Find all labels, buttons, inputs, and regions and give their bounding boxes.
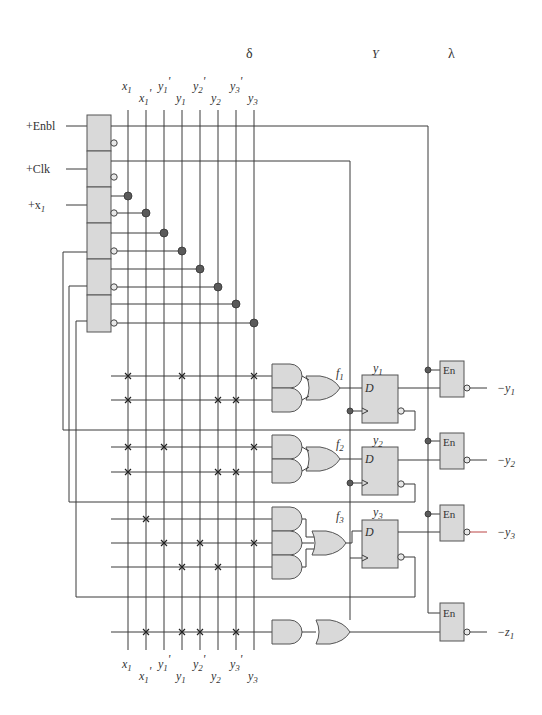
svg-text:x1': x1' bbox=[138, 664, 152, 685]
svg-text:y3': y3' bbox=[229, 74, 243, 95]
svg-text:D: D bbox=[364, 381, 374, 395]
svg-text:y1': y1' bbox=[157, 652, 171, 673]
svg-text:En: En bbox=[443, 508, 456, 520]
top-column-labels: x1 x1' y1' y1 y2' y2 y3' y3 bbox=[121, 74, 258, 107]
crosspoint-marks bbox=[125, 373, 257, 635]
svg-text:y3: y3 bbox=[247, 669, 258, 685]
svg-text:y1': y1' bbox=[157, 74, 171, 95]
f3-label: f3 bbox=[336, 509, 344, 525]
flip-flop-y1: D y1 bbox=[362, 361, 404, 423]
svg-text:y1: y1 bbox=[175, 91, 186, 107]
product-rows bbox=[111, 376, 272, 632]
svg-text:y2': y2' bbox=[192, 74, 206, 95]
flip-flop-y2: D y2 bbox=[362, 433, 404, 495]
svg-text:−y3: −y3 bbox=[497, 525, 515, 541]
x1-input-label: +x1 bbox=[28, 198, 45, 214]
svg-text:y3: y3 bbox=[372, 505, 383, 521]
column-lines bbox=[128, 110, 254, 650]
clk-input-label: +Clk bbox=[26, 162, 50, 176]
svg-text:y3': y3' bbox=[229, 652, 243, 673]
svg-text:D: D bbox=[364, 525, 374, 539]
pla-circuit-diagram: δ Y λ x1 x1' y1' y1 y2' y2 y3' y3 x1 x1'… bbox=[0, 0, 542, 715]
enable-buffer-4: En −z1 bbox=[440, 603, 514, 641]
svg-text:x1: x1 bbox=[121, 657, 132, 673]
svg-text:y1: y1 bbox=[175, 669, 186, 685]
svg-text:−y1: −y1 bbox=[497, 381, 515, 397]
delta-label: δ bbox=[246, 46, 253, 61]
input-buffer-block bbox=[87, 115, 111, 332]
input-wires bbox=[66, 126, 87, 205]
enbl-input-label: +Enbl bbox=[26, 119, 56, 133]
flip-flop-y3: D y3 bbox=[362, 505, 404, 568]
y-section-label: Y bbox=[372, 47, 380, 61]
f1-label: f1 bbox=[336, 366, 344, 382]
svg-text:En: En bbox=[443, 436, 456, 448]
svg-text:−z1: −z1 bbox=[497, 625, 514, 641]
svg-text:En: En bbox=[443, 364, 456, 376]
or-gates bbox=[306, 376, 350, 644]
svg-text:y2: y2 bbox=[210, 91, 221, 107]
lambda-label: λ bbox=[448, 46, 455, 61]
f2-label: f2 bbox=[336, 437, 344, 453]
enable-buffer-2: En −y2 bbox=[440, 433, 515, 469]
svg-text:y2: y2 bbox=[372, 433, 383, 449]
and-gates bbox=[272, 364, 302, 644]
enable-buffer-3: En −y3 bbox=[440, 505, 515, 541]
svg-text:x1: x1 bbox=[121, 79, 132, 95]
bottom-column-labels: x1 x1' y1' y1 y2' y2 y3' y3 bbox=[121, 652, 258, 685]
junction-dots bbox=[124, 192, 258, 327]
enable-buffer-1: En −y1 bbox=[440, 361, 515, 397]
svg-text:y1: y1 bbox=[372, 361, 383, 377]
svg-text:−y2: −y2 bbox=[497, 453, 515, 469]
svg-text:y3: y3 bbox=[247, 91, 258, 107]
svg-text:x1': x1' bbox=[138, 86, 152, 107]
svg-text:En: En bbox=[443, 607, 456, 619]
svg-text:y2': y2' bbox=[192, 652, 206, 673]
svg-text:D: D bbox=[364, 452, 374, 466]
svg-text:y2: y2 bbox=[210, 669, 221, 685]
